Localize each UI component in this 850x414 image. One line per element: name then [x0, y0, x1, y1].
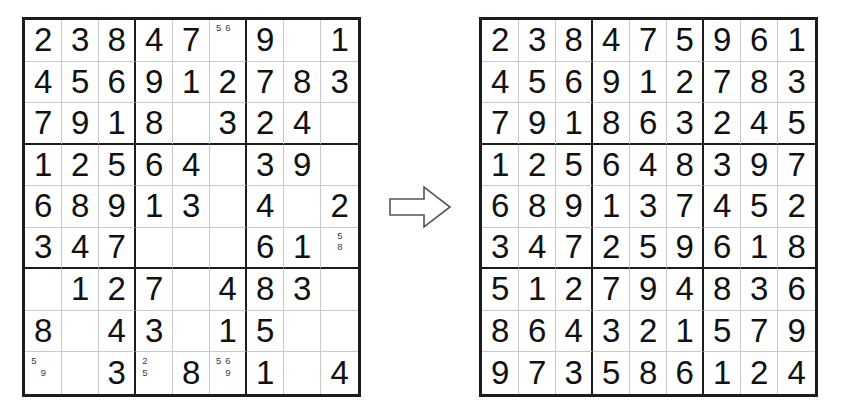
- puzzle-cell-r7c1[interactable]: [25, 269, 62, 311]
- solution-cell-r6c7[interactable]: 6: [704, 228, 741, 270]
- puzzle-cell-r5c1[interactable]: 6: [25, 186, 62, 228]
- puzzle-cell-r4c3[interactable]: 5: [99, 145, 136, 187]
- puzzle-cell-r1c9[interactable]: 1: [321, 20, 358, 62]
- puzzle-cell-r2c6[interactable]: 2: [210, 62, 247, 104]
- solution-cell-r2c8[interactable]: 8: [741, 62, 778, 104]
- solution-cell-r3c1[interactable]: 7: [482, 103, 519, 145]
- puzzle-cell-r1c3[interactable]: 8: [99, 20, 136, 62]
- solution-cell-r5c9[interactable]: 2: [778, 186, 815, 228]
- puzzle-cell-r1c8[interactable]: [284, 20, 321, 62]
- solution-cell-r8c4[interactable]: 3: [593, 311, 630, 353]
- puzzle-cell-r5c4[interactable]: 1: [136, 186, 173, 228]
- solution-cell-r7c4[interactable]: 7: [593, 269, 630, 311]
- solution-cell-r1c3[interactable]: 8: [556, 20, 593, 62]
- puzzle-cell-r9c1[interactable]: 59: [25, 352, 62, 394]
- puzzle-cell-r9c4[interactable]: 25: [136, 352, 173, 394]
- solution-cell-r7c3[interactable]: 2: [556, 269, 593, 311]
- solution-cell-r5c8[interactable]: 5: [741, 186, 778, 228]
- puzzle-cell-r2c5[interactable]: 1: [173, 62, 210, 104]
- puzzle-cell-r7c4[interactable]: 7: [136, 269, 173, 311]
- puzzle-cell-r8c3[interactable]: 4: [99, 311, 136, 353]
- solution-cell-r2c1[interactable]: 4: [482, 62, 519, 104]
- puzzle-cell-r1c4[interactable]: 4: [136, 20, 173, 62]
- puzzle-cell-r9c7[interactable]: 1: [247, 352, 284, 394]
- puzzle-cell-r9c2[interactable]: [62, 352, 99, 394]
- solution-cell-r5c4[interactable]: 1: [593, 186, 630, 228]
- puzzle-cell-r2c7[interactable]: 7: [247, 62, 284, 104]
- solution-cell-r7c8[interactable]: 3: [741, 269, 778, 311]
- puzzle-cell-r3c3[interactable]: 1: [99, 103, 136, 145]
- sudoku-puzzle-grid[interactable]: 2384756914569127837918324125643968913423…: [22, 17, 361, 397]
- puzzle-cell-r4c1[interactable]: 1: [25, 145, 62, 187]
- solution-cell-r5c3[interactable]: 9: [556, 186, 593, 228]
- puzzle-cell-r8c2[interactable]: [62, 311, 99, 353]
- puzzle-cell-r2c9[interactable]: 3: [321, 62, 358, 104]
- puzzle-cell-r2c8[interactable]: 8: [284, 62, 321, 104]
- puzzle-cell-r6c9[interactable]: 58: [321, 228, 358, 270]
- solution-cell-r3c9[interactable]: 5: [778, 103, 815, 145]
- puzzle-cell-r7c5[interactable]: [173, 269, 210, 311]
- puzzle-cell-r8c6[interactable]: 1: [210, 311, 247, 353]
- solution-cell-r6c8[interactable]: 1: [741, 228, 778, 270]
- puzzle-cell-r6c6[interactable]: [210, 228, 247, 270]
- puzzle-cell-r6c5[interactable]: [173, 228, 210, 270]
- puzzle-cell-r1c1[interactable]: 2: [25, 20, 62, 62]
- puzzle-cell-r1c7[interactable]: 9: [247, 20, 284, 62]
- puzzle-cell-r3c9[interactable]: [321, 103, 358, 145]
- solution-cell-r6c9[interactable]: 8: [778, 228, 815, 270]
- puzzle-cell-r2c4[interactable]: 9: [136, 62, 173, 104]
- puzzle-cell-r3c1[interactable]: 7: [25, 103, 62, 145]
- sudoku-solution-grid[interactable]: 2384759614569127837918632451256483976891…: [479, 17, 818, 397]
- puzzle-cell-r7c6[interactable]: 4: [210, 269, 247, 311]
- solution-cell-r8c7[interactable]: 5: [704, 311, 741, 353]
- puzzle-cell-r5c7[interactable]: 4: [247, 186, 284, 228]
- puzzle-cell-r8c7[interactable]: 5: [247, 311, 284, 353]
- solution-cell-r2c2[interactable]: 5: [519, 62, 556, 104]
- puzzle-cell-r8c9[interactable]: [321, 311, 358, 353]
- puzzle-cell-r5c5[interactable]: 3: [173, 186, 210, 228]
- solution-cell-r7c5[interactable]: 9: [630, 269, 667, 311]
- solution-cell-r8c3[interactable]: 4: [556, 311, 593, 353]
- puzzle-cell-r7c7[interactable]: 8: [247, 269, 284, 311]
- puzzle-cell-r4c2[interactable]: 2: [62, 145, 99, 187]
- puzzle-cell-r5c2[interactable]: 8: [62, 186, 99, 228]
- puzzle-cell-r8c8[interactable]: [284, 311, 321, 353]
- solution-cell-r9c5[interactable]: 8: [630, 352, 667, 394]
- puzzle-cell-r9c9[interactable]: 4: [321, 352, 358, 394]
- solution-cell-r8c2[interactable]: 6: [519, 311, 556, 353]
- solution-cell-r1c6[interactable]: 5: [667, 20, 704, 62]
- solution-cell-r9c4[interactable]: 5: [593, 352, 630, 394]
- solution-cell-r7c1[interactable]: 5: [482, 269, 519, 311]
- puzzle-cell-r4c5[interactable]: 4: [173, 145, 210, 187]
- solution-cell-r6c6[interactable]: 9: [667, 228, 704, 270]
- puzzle-cell-r1c2[interactable]: 3: [62, 20, 99, 62]
- puzzle-cell-r1c6[interactable]: 56: [210, 20, 247, 62]
- solution-cell-r8c9[interactable]: 9: [778, 311, 815, 353]
- solution-cell-r9c2[interactable]: 7: [519, 352, 556, 394]
- solution-cell-r4c9[interactable]: 7: [778, 145, 815, 187]
- solution-cell-r7c2[interactable]: 1: [519, 269, 556, 311]
- solution-cell-r4c8[interactable]: 9: [741, 145, 778, 187]
- solution-cell-r5c6[interactable]: 7: [667, 186, 704, 228]
- puzzle-cell-r4c9[interactable]: [321, 145, 358, 187]
- puzzle-cell-r7c8[interactable]: 3: [284, 269, 321, 311]
- solution-cell-r4c5[interactable]: 4: [630, 145, 667, 187]
- solution-cell-r5c5[interactable]: 3: [630, 186, 667, 228]
- puzzle-cell-r6c2[interactable]: 4: [62, 228, 99, 270]
- solution-cell-r3c7[interactable]: 2: [704, 103, 741, 145]
- puzzle-cell-r5c6[interactable]: [210, 186, 247, 228]
- puzzle-cell-r3c5[interactable]: [173, 103, 210, 145]
- solution-cell-r2c6[interactable]: 2: [667, 62, 704, 104]
- solution-cell-r2c4[interactable]: 9: [593, 62, 630, 104]
- solution-cell-r8c8[interactable]: 7: [741, 311, 778, 353]
- puzzle-cell-r6c7[interactable]: 6: [247, 228, 284, 270]
- puzzle-cell-r9c3[interactable]: 3: [99, 352, 136, 394]
- puzzle-cell-r5c8[interactable]: [284, 186, 321, 228]
- solution-cell-r1c5[interactable]: 7: [630, 20, 667, 62]
- solution-cell-r4c3[interactable]: 5: [556, 145, 593, 187]
- puzzle-cell-r4c4[interactable]: 6: [136, 145, 173, 187]
- solution-cell-r6c4[interactable]: 2: [593, 228, 630, 270]
- puzzle-cell-r3c4[interactable]: 8: [136, 103, 173, 145]
- puzzle-cell-r7c2[interactable]: 1: [62, 269, 99, 311]
- solution-cell-r9c6[interactable]: 6: [667, 352, 704, 394]
